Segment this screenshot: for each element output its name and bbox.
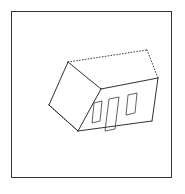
roof-ridge-left-slope-edge — [68, 62, 101, 89]
openings-group — [92, 93, 137, 131]
figure-panel — [0, 0, 185, 194]
window-right-opening — [126, 93, 137, 115]
roof-rear-right-slope-edge — [147, 50, 158, 78]
gable-bottom-right-edge — [78, 89, 101, 131]
gable-left-lower-edge — [49, 105, 78, 131]
visible-edges-group — [49, 62, 158, 131]
window-left-opening — [92, 101, 102, 123]
front-right-corner-edge — [152, 78, 158, 121]
roof-ridge-top-edge — [68, 50, 147, 62]
roof-eave-front-edge — [101, 78, 158, 89]
house-line-drawing — [0, 0, 185, 194]
hidden-edges-group — [49, 50, 158, 131]
gable-left-upper-edge — [49, 62, 68, 105]
